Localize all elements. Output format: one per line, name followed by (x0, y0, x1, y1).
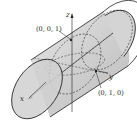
point-label-001: (0, 0, 1) (36, 26, 62, 33)
point-010 (95, 70, 97, 72)
y-axis-label: y (109, 74, 113, 81)
z-axis-label: z (66, 12, 70, 19)
z-axis-arrow (71, 13, 74, 18)
point-label-010: (0, 1, 0) (98, 90, 124, 97)
point-001 (70, 39, 72, 41)
x-axis-label: x (20, 96, 24, 103)
